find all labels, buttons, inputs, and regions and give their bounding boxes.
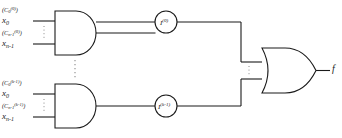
node-label-top: I(0): [160, 18, 168, 27]
input-base-x0-k1: x0: [2, 89, 9, 99]
input-superscript-x0-k1: (C0(k-1)): [2, 79, 21, 86]
input-base-xn1-k1: xn-1: [2, 112, 14, 122]
and-gate-top: [55, 11, 96, 55]
input-superscript-xn1-0: (Cn-1(0)): [2, 29, 22, 36]
input-superscript-x0-0: (C0(0)): [2, 6, 18, 13]
input-base-xn1-0: xn-1: [2, 39, 14, 49]
output-label-f: f: [332, 64, 335, 74]
input-base-x0-0: x0: [2, 16, 9, 26]
node-label-bottom: I(k-1): [158, 102, 170, 111]
and-gate-bottom: [55, 84, 96, 128]
circuit-svg: [0, 0, 342, 138]
figure-canvas: (C0(0)) x0 (Cn-1(0)) xn-1 (C0(k-1)) x0 (…: [0, 0, 342, 138]
input-superscript-xn1-k1: (Cn-1(k-1)): [2, 102, 25, 109]
or-gate: [262, 48, 316, 93]
